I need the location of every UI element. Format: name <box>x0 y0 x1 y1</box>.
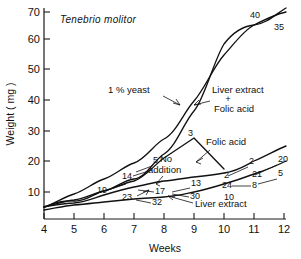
point-label-30: 30 <box>190 191 200 201</box>
xtick-label-6: 6 <box>101 223 107 235</box>
xtick-label-5: 5 <box>71 223 77 235</box>
leader-no-addition <box>156 176 163 184</box>
ytick-label-60: 60 <box>28 33 40 45</box>
annotation-1-percent-yeast: 1 % yeast <box>108 84 150 95</box>
point-label-23: 23 <box>122 192 132 202</box>
point-label-3: 3 <box>188 128 193 138</box>
point-label-24: 24 <box>222 180 232 190</box>
leader-folic-acid-mid <box>196 150 210 162</box>
point-label-20: 20 <box>278 154 288 164</box>
ytick-label-50: 50 <box>28 63 40 75</box>
x-axis-title: Weeks <box>149 242 181 254</box>
leader-5-right <box>258 179 277 184</box>
leader-32 <box>136 200 151 203</box>
point-label-5-right: 5 <box>278 168 283 178</box>
annotation-folic-acid-top: Folic acid <box>214 103 254 114</box>
xtick-label-10: 10 <box>218 223 230 235</box>
chart-figure: 10 20 30 40 50 60 70 4 5 6 7 8 9 10 11 1… <box>0 0 301 259</box>
growth-curve-chart: 10 20 30 40 50 60 70 4 5 6 7 8 9 10 11 1… <box>0 0 301 259</box>
xtick-label-11: 11 <box>248 223 259 235</box>
annotation-addition: addition <box>148 164 181 175</box>
species-name-label: Tenebrio molitor <box>60 14 137 25</box>
ytick-label-20: 20 <box>28 155 40 167</box>
ytick-label-70: 70 <box>28 6 40 18</box>
ytick-label-10: 10 <box>28 186 40 198</box>
ytick-label-40: 40 <box>28 94 40 106</box>
ytick-label-30: 30 <box>28 125 40 137</box>
xtick-label-12: 12 <box>278 223 290 235</box>
point-label-35: 35 <box>274 22 284 32</box>
point-label-10: 10 <box>224 192 234 202</box>
xtick-label-4: 4 <box>41 223 47 235</box>
xtick-label-8: 8 <box>161 223 167 235</box>
point-label-32: 32 <box>152 197 162 207</box>
annotation-liver-extract-bottom: Liver extract <box>195 198 247 209</box>
annotation-folic-acid-mid: Folic acid <box>206 136 246 147</box>
point-label-5-mid: 5 <box>153 155 158 165</box>
point-label-40: 40 <box>250 10 260 20</box>
y-axis-ticks <box>44 12 50 192</box>
leader-13 <box>172 188 190 192</box>
y-axis-title: Weight ( mg ) <box>4 83 16 146</box>
x-axis-ticks <box>44 213 284 219</box>
point-label-19: 19 <box>97 185 107 195</box>
point-label-17: 17 <box>155 186 165 196</box>
xtick-label-7: 7 <box>131 223 137 235</box>
point-label-2-upper: 2 <box>249 156 254 166</box>
point-label-2-lower: 2 <box>224 170 229 180</box>
point-label-14: 14 <box>122 171 132 181</box>
point-label-13: 13 <box>191 178 201 188</box>
annotation-liver-extract-folic-top: Liver extract <box>212 84 264 95</box>
point-label-8: 8 <box>252 180 257 190</box>
xtick-label-9: 9 <box>191 223 197 235</box>
point-label-21: 21 <box>252 169 262 179</box>
annotation-no: No <box>160 153 172 164</box>
